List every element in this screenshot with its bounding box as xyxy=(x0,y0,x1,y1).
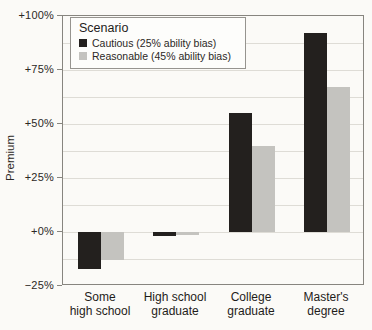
legend-title: Scenario xyxy=(79,21,237,36)
x-tick-label: Somehigh school xyxy=(70,290,131,318)
bar-reasonable xyxy=(101,232,124,260)
y-tick-mark xyxy=(57,123,62,124)
bar-reasonable xyxy=(252,146,275,232)
y-tick-label: +25% xyxy=(0,171,54,183)
legend-item-label: Cautious (25% ability bias) xyxy=(92,37,216,49)
bar-cautious xyxy=(153,232,176,236)
bar-chart-figure: Premium Scenario Cautious (25% ability b… xyxy=(0,0,372,330)
y-tick-label: −25% xyxy=(0,279,54,291)
bar-reasonable xyxy=(327,87,350,232)
legend-item-reasonable: Reasonable (45% ability bias) xyxy=(79,50,237,62)
x-tick-label: High schoolgraduate xyxy=(144,290,207,318)
x-tick-label: Master'sdegree xyxy=(304,290,349,318)
bar-reasonable xyxy=(176,232,199,235)
y-tick-label: +50% xyxy=(0,117,54,129)
x-tick-label: Collegegraduate xyxy=(227,290,274,318)
cautious-swatch-icon xyxy=(79,39,87,47)
reasonable-swatch-icon xyxy=(79,52,87,60)
y-tick-mark xyxy=(57,231,62,232)
legend-item-label: Reasonable (45% ability bias) xyxy=(92,50,231,62)
bar-cautious xyxy=(304,33,327,232)
y-tick-mark xyxy=(57,177,62,178)
y-tick-mark xyxy=(57,285,62,286)
bar-cautious xyxy=(78,232,101,269)
y-tick-label: +0% xyxy=(0,225,54,237)
y-tick-mark xyxy=(57,15,62,16)
legend-item-cautious: Cautious (25% ability bias) xyxy=(79,37,237,49)
legend: Scenario Cautious (25% ability bias) Rea… xyxy=(70,17,246,69)
y-tick-label: +100% xyxy=(0,9,54,21)
bar-cautious xyxy=(229,113,252,232)
y-tick-mark xyxy=(57,69,62,70)
y-tick-label: +75% xyxy=(0,63,54,75)
